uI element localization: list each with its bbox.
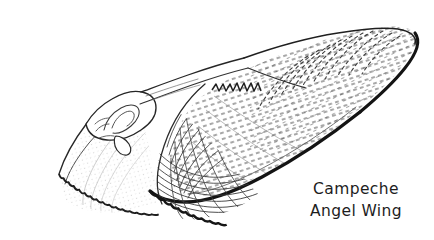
caption-line-species: Campeche [286, 178, 426, 200]
caption-line-common-name: Angel Wing [286, 200, 426, 222]
shell-illustration-page: Campeche Angel Wing [0, 0, 434, 240]
caption-block: Campeche Angel Wing [286, 178, 426, 222]
